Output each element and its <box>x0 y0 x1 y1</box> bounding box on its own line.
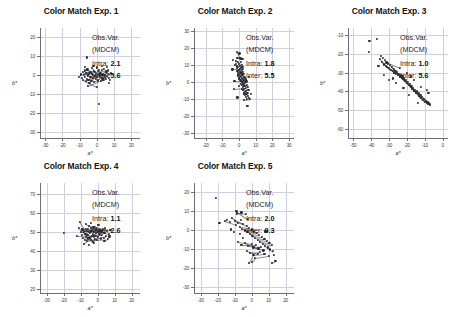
x-axis-line <box>40 293 140 294</box>
x-tick-label: -30 <box>42 143 48 148</box>
intra-row: Intra: 2.1 <box>92 58 120 70</box>
x-tick-label: 0 <box>441 143 443 148</box>
data-point <box>108 82 110 84</box>
data-point <box>87 85 89 87</box>
obs-var-line-1: Obs.Var. <box>246 187 274 199</box>
inter-row: Inter: 9.3 <box>246 225 274 237</box>
data-point <box>246 105 248 107</box>
y-tick-label: -30 <box>183 130 189 135</box>
y-tick-label: -50 <box>337 108 343 113</box>
y-axis-label: b* <box>12 235 17 241</box>
gridline-horizontal <box>194 192 294 193</box>
x-axis-line <box>40 138 140 139</box>
y-tick-label: 10 <box>184 209 189 214</box>
data-point <box>408 94 410 96</box>
obs-var-line-1: Obs.Var. <box>92 32 120 44</box>
gridline-vertical <box>443 28 444 138</box>
intra-value: 1.0 <box>418 59 428 68</box>
gridline-horizontal <box>40 213 140 214</box>
x-tick-label: -20 <box>215 298 221 303</box>
y-axis-label: b* <box>320 80 325 86</box>
gridline-horizontal <box>40 132 140 133</box>
obs-var-line-2: (MDCM) <box>92 44 120 56</box>
x-tick-label: 10 <box>112 298 117 303</box>
x-tick-label: -10 <box>232 298 238 303</box>
x-tick-label: 20 <box>129 143 134 148</box>
inter-value: 5.5 <box>264 71 274 80</box>
x-tick-label: 20 <box>270 143 275 148</box>
gridline-horizontal <box>194 116 294 117</box>
gridline-vertical <box>286 183 287 293</box>
y-tick-label: -60 <box>337 126 343 131</box>
y-axis-label: b* <box>166 235 171 241</box>
obs-var-infobox: Obs.Var.(MDCM)Intra: 1.1Inter: 2.6 <box>92 187 120 236</box>
chart-panel-2: Color Match Exp. 2-30-20-100102030-20-10… <box>160 6 310 158</box>
panel-title: Color Match Exp. 5 <box>160 161 310 171</box>
gridline-vertical <box>218 183 219 293</box>
x-tick-label: -20 <box>203 143 209 148</box>
data-point <box>260 245 262 247</box>
y-tick-label: 0 <box>33 73 35 78</box>
gridline-vertical <box>235 183 236 293</box>
obs-var-infobox: Obs.Var.(MDCM)Intra: 1.8Inter: 5.5 <box>246 32 274 81</box>
x-axis-line <box>348 138 448 139</box>
y-tick-label: 0 <box>187 80 189 85</box>
obs-var-line-1: Obs.Var. <box>92 187 120 199</box>
data-point <box>367 51 369 53</box>
y-axis-label: b* <box>166 80 171 86</box>
data-point <box>240 219 242 221</box>
inter-row: Inter: 5.6 <box>92 70 120 82</box>
data-point <box>254 257 256 259</box>
x-tick-label: 30 <box>287 143 292 148</box>
y-tick-label: -20 <box>183 266 189 271</box>
data-point <box>86 240 88 242</box>
inter-row: Inter: 5.5 <box>246 70 274 82</box>
y-tick-label: 40 <box>30 249 35 254</box>
y-tick-label: 10 <box>30 54 35 59</box>
chart-panel-5: Color Match Exp. 5-30-20-1001020-30-20-1… <box>160 161 310 313</box>
gridline-horizontal <box>194 133 294 134</box>
data-point <box>103 240 105 242</box>
intra-label: Intra: <box>246 59 262 68</box>
data-point <box>392 77 394 79</box>
y-tick-label: 20 <box>30 35 35 40</box>
gridline-horizontal <box>40 56 140 57</box>
data-point <box>262 249 264 251</box>
intra-value: 2.1 <box>110 59 120 68</box>
connector-segment <box>255 256 269 259</box>
data-point <box>263 253 265 255</box>
panel-title: Color Match Exp. 4 <box>6 161 156 171</box>
y-tick-label: 30 <box>184 29 189 34</box>
data-point <box>242 237 244 239</box>
inter-label: Inter: <box>92 226 108 235</box>
intra-value: 2.0 <box>264 214 274 223</box>
gridline-vertical <box>131 28 132 138</box>
y-tick-label: 0 <box>187 228 189 233</box>
obs-var-line-2: (MDCM) <box>246 44 274 56</box>
data-point <box>250 93 252 95</box>
inter-value: 9.3 <box>264 226 274 235</box>
data-point <box>259 251 261 253</box>
data-point <box>271 262 273 264</box>
y-axis-line <box>194 28 195 138</box>
x-tick-label: 0 <box>238 143 240 148</box>
intra-row: Intra: 2.0 <box>246 213 274 225</box>
x-tick-label: -40 <box>368 143 374 148</box>
data-point <box>93 242 95 244</box>
y-tick-label: 20 <box>30 287 35 292</box>
x-axis-label: a* <box>395 150 400 156</box>
data-point <box>255 244 257 246</box>
y-tick-label: -20 <box>183 114 189 119</box>
gridline-vertical <box>80 28 81 138</box>
inter-value: 5.6 <box>110 71 120 80</box>
intra-row: Intra: 1.8 <box>246 58 274 70</box>
chart-panel-3: Color Match Exp. 3-60-50-40-30-20-10-50-… <box>314 6 464 158</box>
gridline-horizontal <box>348 35 448 36</box>
gridline-vertical <box>206 28 207 138</box>
x-tick-label: -10 <box>422 143 428 148</box>
gridline-horizontal <box>40 194 140 195</box>
data-point <box>273 254 275 256</box>
x-tick-label: -20 <box>404 143 410 148</box>
data-point <box>231 68 233 70</box>
x-tick-label: -30 <box>44 298 50 303</box>
